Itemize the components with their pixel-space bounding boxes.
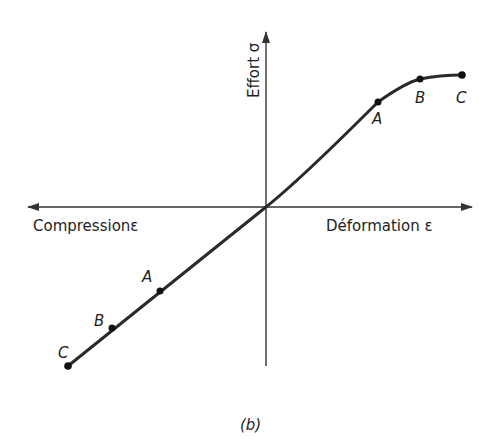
label-lower-a: A — [141, 268, 152, 286]
label-upper-b: B — [415, 89, 425, 107]
x-axis-pos-label: Déformation ε — [326, 217, 433, 235]
point-upper-a — [375, 99, 382, 106]
point-lower-b — [109, 325, 116, 332]
label-lower-b: B — [94, 312, 104, 330]
y-axis-label: Effort σ — [245, 42, 263, 98]
label-upper-a: A — [371, 110, 382, 128]
stress-strain-diagram: A B C A B C Effort σ Déformation ε Compr… — [0, 0, 497, 447]
point-lower-a — [157, 288, 164, 295]
point-lower-c — [64, 362, 72, 370]
label-upper-c: C — [456, 89, 467, 107]
point-upper-c — [458, 71, 466, 79]
x-axis-neg-label: Compressionε — [33, 217, 138, 235]
point-upper-b — [417, 76, 424, 83]
label-lower-c: C — [58, 344, 69, 362]
figure-caption: (b) — [240, 416, 261, 434]
